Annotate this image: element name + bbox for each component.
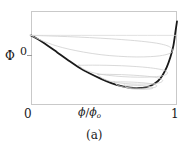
x-axis-label-denominator: ϕ: [89, 106, 97, 119]
figure-caption: (a): [86, 129, 103, 141]
x-axis-label-subscript: o: [97, 112, 101, 120]
plot-curves: [31, 11, 177, 105]
x-axis-label-numerator: ϕ: [78, 106, 86, 119]
y-axis-label: Φ: [5, 50, 15, 62]
curve-loop-curve-1: [30, 35, 173, 57]
x-axis-label: ϕ/ϕo: [78, 107, 101, 120]
figure-panel-a: Φ 0 0 1 ϕ/ϕo (a): [0, 0, 191, 151]
x-axis-tick-label-one: 1: [171, 108, 179, 120]
x-axis-tick-label-zero: 0: [24, 108, 32, 120]
y-axis-tick-label-zero: 0: [20, 46, 27, 57]
